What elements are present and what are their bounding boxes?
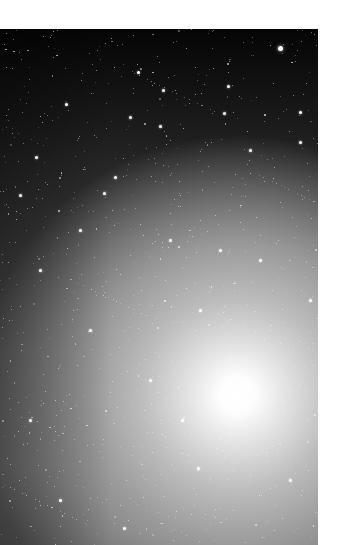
star — [86, 525, 87, 526]
star — [192, 312, 193, 313]
star — [194, 227, 195, 228]
star — [134, 262, 135, 263]
star — [152, 34, 153, 35]
star — [276, 243, 277, 244]
galaxy-photo — [0, 29, 318, 545]
star — [211, 286, 213, 288]
star — [237, 118, 238, 119]
star — [83, 514, 84, 515]
star — [132, 455, 133, 456]
star — [58, 117, 59, 118]
star — [106, 281, 107, 282]
star — [275, 505, 276, 506]
star — [232, 85, 233, 86]
star — [292, 44, 293, 45]
star — [65, 101, 66, 102]
star — [283, 44, 284, 45]
star — [264, 181, 265, 182]
star — [152, 534, 154, 536]
star — [270, 45, 271, 46]
star — [143, 497, 144, 498]
star — [98, 273, 99, 274]
star — [99, 451, 100, 452]
star — [241, 403, 242, 404]
star — [181, 531, 183, 533]
star — [216, 368, 217, 369]
star — [184, 97, 185, 98]
star — [292, 217, 293, 218]
star — [126, 175, 127, 176]
star — [282, 207, 283, 208]
star — [213, 68, 214, 69]
star — [78, 283, 79, 284]
star — [308, 348, 309, 349]
star — [40, 405, 42, 407]
star — [49, 338, 50, 339]
star — [9, 278, 10, 279]
star — [316, 45, 317, 46]
star — [65, 68, 66, 69]
star — [78, 474, 79, 475]
star — [99, 46, 100, 47]
star — [6, 67, 7, 68]
star — [14, 137, 15, 138]
star — [33, 303, 35, 305]
star — [66, 403, 67, 404]
star — [3, 318, 4, 319]
star — [78, 245, 79, 246]
star — [47, 329, 48, 330]
star — [120, 274, 121, 275]
star — [20, 99, 21, 100]
star — [64, 301, 65, 302]
star — [299, 115, 300, 116]
star — [145, 457, 146, 458]
star — [266, 415, 267, 416]
star — [96, 137, 97, 138]
star — [164, 87, 166, 89]
star — [139, 364, 140, 365]
star — [54, 48, 55, 49]
star — [145, 464, 146, 465]
star — [317, 143, 318, 144]
star — [207, 387, 208, 388]
star — [16, 211, 17, 212]
star — [87, 520, 88, 521]
star — [96, 295, 97, 296]
star — [207, 144, 209, 146]
star — [2, 474, 4, 476]
star — [176, 295, 177, 296]
star — [305, 390, 306, 391]
star — [49, 427, 51, 429]
star — [12, 68, 13, 69]
star — [8, 109, 9, 110]
star — [152, 376, 153, 377]
star — [71, 541, 72, 542]
star — [212, 48, 213, 49]
star — [245, 196, 246, 197]
star — [159, 356, 160, 357]
star — [214, 111, 215, 112]
star — [220, 437, 221, 438]
star — [52, 120, 54, 122]
star — [314, 394, 315, 395]
star — [12, 128, 13, 129]
star — [29, 79, 30, 80]
star — [83, 487, 84, 488]
star — [47, 356, 49, 358]
star — [229, 61, 230, 62]
star — [149, 256, 150, 257]
star — [169, 420, 170, 421]
star — [195, 283, 196, 284]
star — [60, 511, 61, 512]
star — [225, 432, 226, 433]
star — [171, 464, 172, 465]
star — [84, 151, 85, 152]
star — [70, 279, 72, 281]
star — [224, 306, 225, 307]
star — [48, 46, 49, 47]
star — [25, 477, 26, 478]
star — [76, 519, 77, 520]
star — [74, 192, 75, 193]
star — [111, 483, 112, 484]
star — [82, 73, 83, 74]
